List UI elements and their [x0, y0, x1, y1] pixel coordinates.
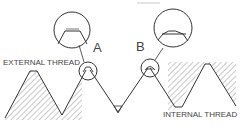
- detail-a-small-crest: [83, 67, 93, 72]
- detail-b-label: B: [136, 39, 145, 54]
- mid-profile: [90, 68, 148, 112]
- internal-thread-label: INTERNAL THREAD: [163, 110, 237, 119]
- detail-a-large-crest: [58, 31, 87, 44]
- detail-a-label: A: [93, 40, 102, 55]
- thread-diagram-svg: A B EXTERNAL THREAD INTERNAL THREAD: [0, 0, 241, 132]
- external-thread-label: EXTERNAL THREAD: [3, 58, 80, 67]
- detail-a-large-circle: [54, 12, 90, 48]
- detail-a-small-circle: [79, 62, 97, 80]
- detail-b-leader: [155, 48, 163, 60]
- detail-b-large-circle: [154, 9, 192, 47]
- detail-b-large-crest: [158, 31, 188, 41]
